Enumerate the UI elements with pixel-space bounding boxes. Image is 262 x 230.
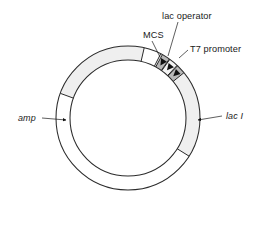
plasmid-diagram: amp lac I MCS lac operator T7 promoter — [0, 0, 262, 230]
label-amp: amp — [18, 113, 36, 123]
figure-background — [0, 0, 262, 230]
label-t7-promoter: T7 promoter — [190, 44, 241, 54]
label-lac-operator: lac operator — [162, 11, 212, 21]
label-mcs: MCS — [143, 30, 164, 40]
plasmid-map-figure: amp lac I MCS lac operator T7 promoter — [0, 0, 262, 230]
label-lac-i: lac I — [226, 111, 243, 121]
